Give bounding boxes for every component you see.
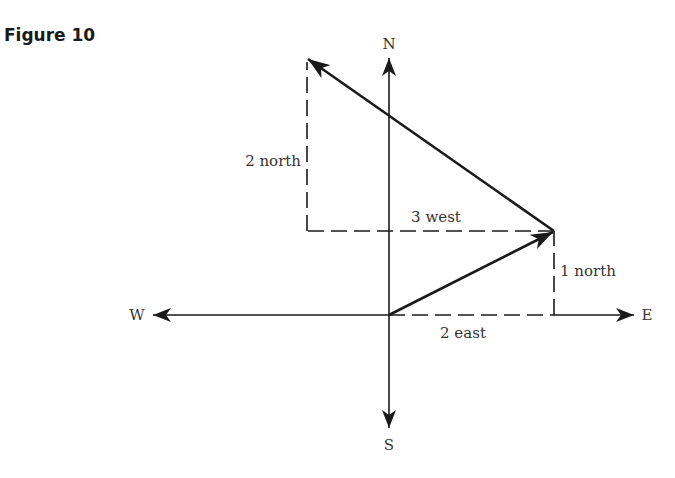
two-east-label: 2 east <box>440 324 486 342</box>
two-north-label: 2 north <box>245 152 301 170</box>
vector-diagram: N S W E 2 north 3 west 1 north 2 east <box>0 0 675 478</box>
north-label: N <box>382 35 395 53</box>
first-vector-arrow <box>389 232 553 315</box>
component-lines <box>307 62 554 315</box>
south-label: S <box>384 436 394 454</box>
one-north-label: 1 north <box>560 262 616 280</box>
compass-axes <box>153 58 634 428</box>
east-label: E <box>642 306 653 324</box>
west-label: W <box>129 306 145 324</box>
second-vector-arrow <box>308 59 554 231</box>
three-west-label: 3 west <box>411 208 461 226</box>
